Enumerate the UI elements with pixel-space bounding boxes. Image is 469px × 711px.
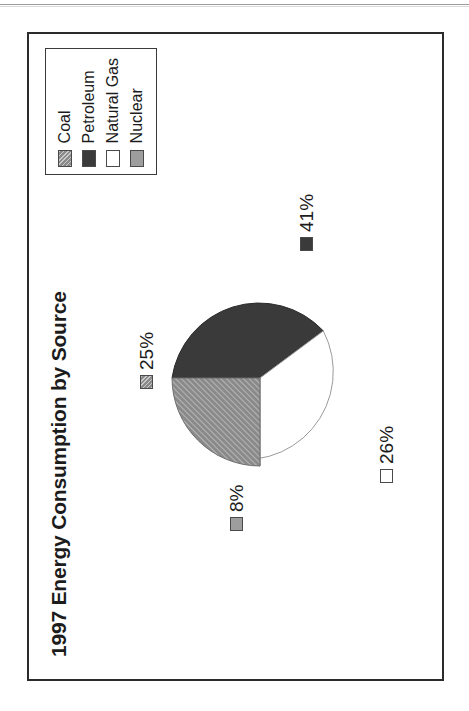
- legend-label-coal: Coal: [57, 110, 73, 143]
- data-label-marker-coal-icon: [140, 375, 153, 389]
- data-label-petroleum: 41%: [297, 194, 316, 251]
- data-label-value-petroleum: 41%: [297, 194, 316, 232]
- legend-item-nuclear[interactable]: Nuclear: [125, 58, 149, 167]
- pie-chart-svg: [169, 287, 351, 469]
- legend-swatch-natural-gas-icon: [106, 150, 120, 167]
- chart-frame: 1997 Energy Consumption by Source Coal P…: [27, 32, 444, 681]
- legend-item-coal[interactable]: Coal: [53, 58, 77, 167]
- rotated-chart-content: 1997 Energy Consumption by Source Coal P…: [29, 34, 442, 679]
- legend-label-petroleum: Petroleum: [81, 70, 97, 143]
- data-label-value-coal: 25%: [137, 332, 156, 370]
- data-label-coal: 25%: [137, 332, 156, 389]
- scan-artifact-rule-secondary: [0, 6, 469, 7]
- data-label-nuclear: 8%: [227, 485, 246, 531]
- legend-item-petroleum[interactable]: Petroleum: [77, 58, 101, 167]
- legend-label-natural-gas: Natural Gas: [105, 58, 121, 143]
- data-label-value-natural-gas: 26%: [377, 426, 396, 464]
- chart-legend: Coal Petroleum Natural Gas Nuclear: [45, 48, 157, 175]
- scanned-page: 1997 Energy Consumption by Source Coal P…: [0, 0, 469, 711]
- legend-label-nuclear: Nuclear: [129, 88, 145, 143]
- data-label-marker-nuclear-icon: [230, 517, 243, 531]
- pie-slice-coal[interactable]: [172, 378, 260, 466]
- legend-item-natural-gas[interactable]: Natural Gas: [101, 58, 125, 167]
- legend-swatch-petroleum-icon: [82, 150, 96, 167]
- data-label-natural-gas: 26%: [377, 426, 396, 483]
- chart-title: 1997 Energy Consumption by Source: [47, 291, 71, 657]
- legend-swatch-nuclear-icon: [130, 150, 144, 167]
- legend-swatch-coal-icon: [58, 150, 72, 167]
- pie-chart: [169, 287, 351, 469]
- data-label-marker-petroleum-icon: [300, 237, 313, 251]
- scan-artifact-rule: [0, 4, 469, 5]
- data-label-value-nuclear: 8%: [227, 485, 246, 512]
- data-label-marker-natural-gas-icon: [380, 469, 393, 483]
